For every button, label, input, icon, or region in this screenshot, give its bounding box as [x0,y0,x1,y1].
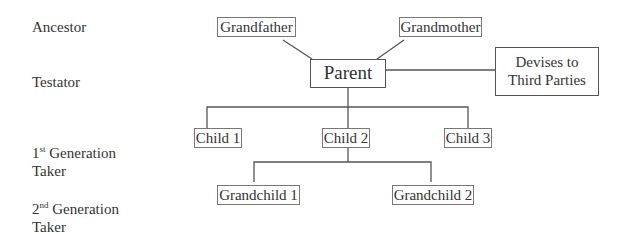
node-devises-third-parties: Devises to Third Parties [495,47,599,96]
first-gen-number: 1 [32,145,40,161]
second-gen-number: 2 [32,201,40,217]
first-gen-taker: Taker [32,163,66,179]
node-grandmother: Grandmother [399,17,482,37]
row-label-first-generation: 1st Generation Taker [32,144,116,180]
devises-line-1: Devises to [516,54,579,70]
node-child-1: Child 1 [194,128,242,148]
connector-children-bar [207,107,468,128]
connector-lines [0,0,628,234]
row-label-second-generation: 2nd Generation Taker [32,200,119,234]
node-grandchild-1: Grandchild 1 [217,185,300,205]
second-gen-taker: Taker [32,219,66,234]
second-gen-ordinal: nd [40,200,49,210]
node-grandfather: Grandfather [217,17,296,37]
node-child-3: Child 3 [444,128,492,148]
second-gen-text: Generation [49,201,119,217]
connector-grandfather-parent [283,40,312,59]
node-child-2: Child 2 [322,128,370,148]
row-label-ancestor: Ancestor [32,18,86,36]
connector-grandmother-parent [377,40,404,59]
devises-line-2: Third Parties [508,72,586,88]
node-parent: Parent [310,59,386,88]
first-gen-text: Generation [46,145,116,161]
row-label-testator: Testator [32,73,80,91]
connector-grandchildren-bar [254,162,431,182]
node-grandchild-2: Grandchild 2 [392,185,474,205]
